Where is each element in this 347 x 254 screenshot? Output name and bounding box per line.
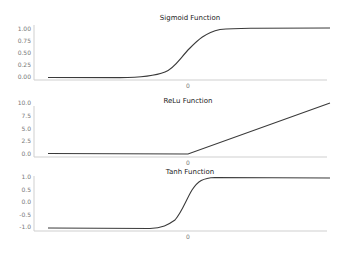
y-tick: 0.5 <box>21 186 31 193</box>
y-tick: 0.75 <box>18 37 32 44</box>
sigmoid-chart: Sigmoid Function 1.00 0.75 0.50 0.25 0.0… <box>18 14 330 89</box>
tanh-curve <box>48 178 330 229</box>
y-tick: 0.00 <box>18 73 32 80</box>
y-tick: 0.50 <box>18 49 32 56</box>
y-tick: 1.00 <box>18 25 32 32</box>
chart-title: ReLu Function <box>163 97 212 105</box>
y-tick: 0.0 <box>21 198 31 205</box>
chart-title: Sigmoid Function <box>160 14 220 22</box>
sigmoid-curve <box>48 28 330 78</box>
y-tick: 0.0 <box>21 150 31 157</box>
y-tick: 2.5 <box>21 137 31 144</box>
y-tick: 7.5 <box>21 112 31 119</box>
x-tick: 0 <box>186 82 190 89</box>
chart-title: Tanh Function <box>165 168 214 176</box>
y-tick: -1.0 <box>19 223 31 230</box>
x-tick: 0 <box>186 233 190 240</box>
y-tick: 1.0 <box>21 173 31 180</box>
relu-curve <box>48 103 330 154</box>
charts-canvas: Sigmoid Function 1.00 0.75 0.50 0.25 0.0… <box>0 0 347 254</box>
y-tick: 10.0 <box>18 99 32 106</box>
y-tick: -0.5 <box>19 211 31 218</box>
y-tick: 5.0 <box>21 125 31 132</box>
tanh-chart: Tanh Function 1.0 0.5 0.0 -0.5 -1.0 0 <box>19 168 330 240</box>
y-tick: 0.25 <box>18 61 32 68</box>
relu-chart: ReLu Function 10.0 7.5 5.0 2.5 0.0 0 <box>18 97 330 166</box>
x-tick: 0 <box>186 159 190 166</box>
